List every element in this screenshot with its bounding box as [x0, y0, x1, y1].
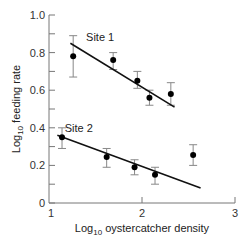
x-tick-label: 2: [139, 207, 145, 219]
data-point: [190, 152, 196, 158]
data-point: [152, 172, 158, 178]
x-axis-title: Log10 oystercatcher density: [75, 222, 210, 237]
y-tick-label: 1.0: [30, 9, 45, 21]
regression-line: [57, 135, 200, 188]
series-2: Site 2: [57, 122, 200, 188]
series-label: Site 2: [65, 122, 93, 134]
y-axis-title: Log10 feeding rate: [10, 65, 25, 153]
data-point: [134, 78, 140, 84]
data-point: [104, 154, 110, 160]
y-tick-label: 0.4: [30, 122, 45, 134]
y-tick-label: 0.2: [30, 159, 45, 171]
data-point: [70, 53, 76, 59]
x-axis-ticks: 123: [48, 197, 238, 219]
x-tick-label: 3: [232, 207, 238, 219]
series-1: Site 1: [69, 31, 175, 107]
data-point: [59, 134, 65, 140]
series-label: Site 1: [86, 31, 114, 43]
x-tick-label: 1: [48, 207, 54, 219]
series-layer: Site 1Site 2: [57, 31, 200, 188]
y-tick-label: 0.8: [30, 47, 45, 59]
data-point: [110, 57, 116, 63]
data-point: [146, 95, 152, 101]
data-point: [132, 164, 138, 170]
y-tick-label: 0.6: [30, 84, 45, 96]
y-axis-ticks: 00.20.40.60.81.0: [30, 9, 55, 209]
y-tick-label: 0: [39, 197, 45, 209]
data-point: [168, 91, 174, 97]
scatter-chart: 00.20.40.60.81.0 123 Site 1Site 2 Log10 …: [0, 0, 248, 238]
axes: [49, 15, 235, 203]
regression-line: [70, 43, 174, 107]
